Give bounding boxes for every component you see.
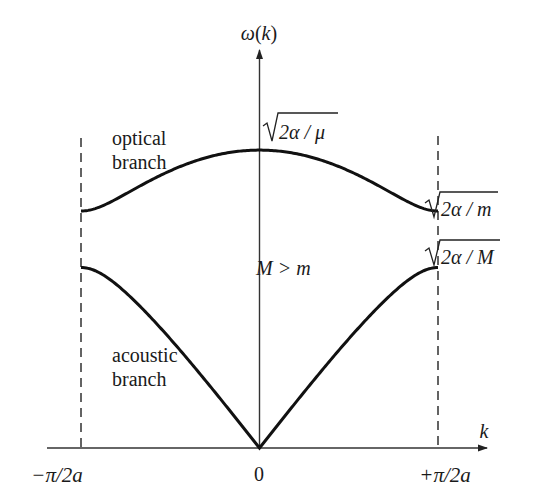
optical-label-line2: branch: [112, 151, 166, 173]
mass-condition: M > m: [255, 257, 311, 279]
y-axis-label: ω(k): [241, 22, 277, 45]
optical-max-annotation: 2α / μ: [263, 113, 338, 144]
acoustic-label-line1: acoustic: [112, 344, 178, 366]
svg-text:2α / μ: 2α / μ: [279, 121, 325, 144]
dispersion-diagram: ω(k) k −π/2a 0 +π/2a optical branch acou…: [0, 0, 548, 502]
svg-text:2α / m: 2α / m: [441, 198, 492, 220]
optical-label-line1: optical: [112, 127, 167, 150]
tick-label-zero: 0: [254, 463, 264, 485]
x-axis-label: k: [480, 420, 490, 442]
svg-text:2α / M: 2α / M: [441, 246, 495, 268]
optical-edge-annotation: 2α / m: [425, 192, 498, 220]
tick-label-neg: −π/2a: [31, 463, 83, 487]
acoustic-edge-annotation: 2α / M: [425, 240, 500, 268]
tick-label-pos: +π/2a: [419, 463, 471, 487]
acoustic-label-line2: branch: [112, 368, 166, 390]
